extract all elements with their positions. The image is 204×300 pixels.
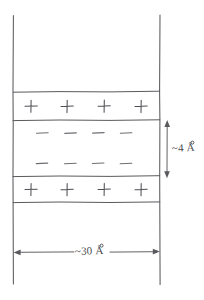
lower-negative-row xyxy=(36,163,132,164)
arrow-down-icon xyxy=(164,171,170,178)
plus-icon xyxy=(135,100,147,112)
width-dimension: ~30 Å xyxy=(14,244,160,257)
gap-dimension: ~4 Å xyxy=(164,120,195,178)
plus-icon xyxy=(61,184,73,196)
upper-negative-row xyxy=(37,133,132,134)
minus-icon xyxy=(120,133,131,134)
plus-icon xyxy=(98,100,110,112)
minus-icon xyxy=(37,133,49,134)
bottom-plate-charges xyxy=(25,183,147,195)
minus-icon xyxy=(93,133,105,134)
width-dimension-label: ~30 Å xyxy=(75,244,104,257)
gap-dimension-label: ~4 Å xyxy=(171,141,195,154)
plus-icon xyxy=(25,184,37,196)
diagram-canvas: ~4 Å ~30 Å xyxy=(0,0,204,300)
minus-icon xyxy=(65,133,77,134)
bottom-plate-top-edge xyxy=(13,176,160,177)
top-plate-top-edge xyxy=(13,91,160,92)
minus-icon xyxy=(92,163,104,164)
double-layer-diagram: ~4 Å ~30 Å xyxy=(0,0,204,300)
arrow-left-icon xyxy=(14,250,21,256)
minus-icon xyxy=(65,163,77,164)
arrow-up-icon xyxy=(164,120,170,127)
minus-icon xyxy=(36,163,48,164)
right-wall-line xyxy=(160,15,161,285)
arrow-right-icon xyxy=(153,249,160,255)
plus-icon xyxy=(135,184,147,196)
minus-icon xyxy=(120,163,132,164)
plus-icon xyxy=(61,100,73,112)
top-plate-bottom-edge xyxy=(13,120,160,121)
top-plate-charges xyxy=(25,100,147,112)
bottom-plate-bottom-edge xyxy=(13,202,160,203)
plus-icon xyxy=(25,100,37,112)
plus-icon xyxy=(98,183,110,195)
